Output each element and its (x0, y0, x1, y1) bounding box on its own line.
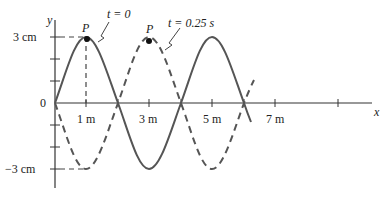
y-tick-label-pos: 3 cm (13, 30, 37, 44)
x-tick-label-5m: 5 m (203, 112, 222, 126)
x-tick-label-1m: 1 m (77, 112, 96, 126)
x-tick-label-3m: 3 m (139, 112, 158, 126)
leader-t0 (98, 22, 109, 42)
point-p-t025 (146, 38, 152, 44)
curve-label-t025: t = 0.25 s (168, 16, 214, 30)
origin-label: 0 (40, 96, 46, 110)
y-axis-label: y (46, 13, 53, 27)
curve-label-t0: t = 0 (107, 7, 130, 21)
point-p-label-t0: P (81, 21, 90, 35)
point-p-label-t025: P (145, 22, 154, 36)
wave-diagram: y x 0 3 cm −3 cm 1 m 3 m 5 m 7 m P P t =… (0, 0, 385, 202)
point-p-t0 (84, 36, 90, 42)
leader-t025 (165, 28, 180, 50)
y-tick-label-neg: −3 cm (5, 162, 36, 176)
x-axis-label: x (373, 105, 380, 119)
x-tick-label-7m: 7 m (266, 112, 285, 126)
